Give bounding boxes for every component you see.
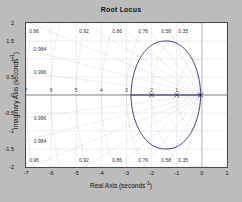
x-axis-label-tail: ) bbox=[150, 182, 152, 189]
y-tick-label: 0.5 bbox=[0, 74, 14, 80]
chart-title: Root Locus bbox=[0, 6, 242, 13]
damping-ratio-label-bottom: 0.35 bbox=[178, 158, 189, 163]
damping-ratio-label-bottom: 0.92 bbox=[79, 158, 90, 163]
x-tick-label: -5 bbox=[66, 170, 86, 176]
natural-frequency-label: 6 bbox=[49, 88, 53, 93]
damping-ratio-label-bottom: 0.86 bbox=[112, 158, 123, 163]
natural-frequency-label: 3 bbox=[125, 88, 129, 93]
x-tick-label: -1 bbox=[167, 170, 187, 176]
natural-frequency-label: 5 bbox=[74, 88, 78, 93]
y-tick-label: -0.5 bbox=[0, 110, 14, 116]
y-tick-label: -2 bbox=[0, 164, 14, 170]
natural-frequency-label: 1 bbox=[175, 88, 179, 93]
y-axis-label-tail: ) bbox=[12, 52, 19, 54]
damping-ratio-label-top: 0.35 bbox=[178, 29, 189, 34]
damping-ratio-label-left-lower: 0.984 bbox=[33, 138, 46, 143]
y-tick-label: -1 bbox=[0, 128, 14, 134]
damping-ratio-label-bottom: 0.76 bbox=[138, 158, 149, 163]
damping-ratio-label-left-lower: 0.996 bbox=[33, 115, 46, 120]
damping-ratio-label-top: 0.76 bbox=[138, 29, 149, 34]
root-locus-figure: Root Locus Imaginary Axis (seconds-1) Re… bbox=[0, 0, 242, 202]
x-tick-label: -6 bbox=[41, 170, 61, 176]
plot-area[interactable]: 0.960.920.860.760.580.350.960.920.860.76… bbox=[25, 22, 228, 168]
natural-frequency-label: 4 bbox=[100, 88, 104, 93]
damping-ratio-ray bbox=[26, 95, 202, 124]
damping-ratio-label-top: 0.92 bbox=[79, 29, 90, 34]
damping-ratio-label-top: 0.96 bbox=[29, 29, 40, 34]
root-locus-canvas bbox=[26, 23, 227, 167]
damping-ratio-label-left-upper: 0.984 bbox=[33, 47, 46, 52]
x-tick-label: -7 bbox=[16, 170, 36, 176]
y-tick-label: 1.5 bbox=[0, 38, 14, 44]
x-axis-label-text: Real Axis (seconds bbox=[90, 182, 145, 189]
y-tick-label: -1.5 bbox=[0, 146, 14, 152]
x-tick-label: -2 bbox=[142, 170, 162, 176]
damping-ratio-label-bottom: 0.58 bbox=[161, 158, 172, 163]
damping-ratio-label-top: 0.58 bbox=[161, 29, 172, 34]
natural-frequency-label: 2 bbox=[150, 88, 154, 93]
y-tick-label: 1 bbox=[0, 56, 14, 62]
x-tick-label: -3 bbox=[117, 170, 137, 176]
x-tick-label: 1 bbox=[217, 170, 237, 176]
x-tick-label: -4 bbox=[91, 170, 111, 176]
x-axis-label: Real Axis (seconds-1) bbox=[0, 180, 242, 189]
damping-ratio-label-top: 0.86 bbox=[112, 29, 123, 34]
y-tick-label: 0 bbox=[0, 92, 14, 98]
damping-ratio-label-bottom: 0.96 bbox=[29, 158, 40, 163]
natural-frequency-label: 7 bbox=[25, 88, 28, 93]
damping-ratio-label-left-upper: 0.996 bbox=[33, 70, 46, 75]
y-tick-label: 2 bbox=[0, 20, 14, 26]
x-tick-label: 0 bbox=[192, 170, 212, 176]
